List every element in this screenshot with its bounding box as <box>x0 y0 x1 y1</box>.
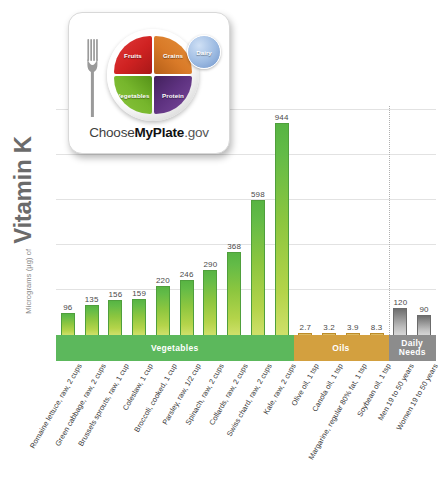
logo-wordmark-gov: .gov <box>184 125 209 140</box>
logo-wordmark-choose: Choose <box>89 125 134 140</box>
gridline-800 <box>56 154 436 155</box>
bar-value-label: 156 <box>108 290 122 299</box>
gridline-600 <box>56 199 436 200</box>
bar[interactable]: 290 <box>203 270 217 335</box>
category-bands: VegetablesOilsDaily Needs <box>56 335 436 361</box>
bar-value-label: 944 <box>275 113 289 122</box>
x-axis-label: Broccoli, cooked, 1 cup <box>132 362 179 434</box>
bar[interactable]: 120 <box>393 308 407 335</box>
x-axis-labels: Romaine lettuce, raw, 2 cupsGreen cabbag… <box>56 362 444 502</box>
bar-value-label: 3.2 <box>323 323 335 332</box>
bar-value-label: 90 <box>419 305 428 314</box>
plate-segment-fruits: Fruits <box>114 36 152 74</box>
bar-value-label: 220 <box>156 276 170 285</box>
bar-value-label: 598 <box>251 190 265 199</box>
y-axis-nutrient: Vitamin K <box>9 136 37 244</box>
bar[interactable]: 96 <box>61 313 75 335</box>
x-axis-label: Swiss chard, raw, 2 cups <box>225 362 274 438</box>
bar[interactable]: 246 <box>180 280 194 335</box>
bar-value-label: 368 <box>227 242 241 251</box>
y-axis-title: Micrograms (µg) of Vitamin K <box>0 100 46 350</box>
plate-segment-fruits-label: Fruits <box>114 36 152 74</box>
bar[interactable]: 598 <box>251 200 265 335</box>
category-band-vegetables: Vegetables <box>56 335 294 361</box>
vitamin-k-chart-page: Micrograms (µg) of Vitamin K 96135156159… <box>0 0 444 503</box>
bar-value-label: 159 <box>132 289 146 298</box>
bar-value-label: 120 <box>393 298 407 307</box>
plate-segment-vegetables: Vegetables <box>114 76 152 114</box>
bar[interactable]: 220 <box>156 286 170 336</box>
bar[interactable]: 135 <box>85 305 99 335</box>
group-divider-dotted-line <box>389 106 390 335</box>
plate-segment-protein: Protein <box>154 76 192 114</box>
plate-segment-vegetables-label: Vegetables <box>114 76 152 114</box>
gridline-400 <box>56 244 436 245</box>
category-band-daily-needs: Daily Needs <box>389 335 437 361</box>
logo-wordmark: ChooseMyPlate.gov <box>69 125 229 140</box>
bar-value-label: 2.7 <box>300 323 312 332</box>
plate-segment-dairy: Dairy <box>187 35 221 69</box>
bar[interactable]: 159 <box>132 299 146 335</box>
choose-myplate-logo: Fruits Grains Vegetables Protein Dairy C… <box>68 12 230 154</box>
bar-value-label: 290 <box>203 260 217 269</box>
bar-value-label: 3.9 <box>347 323 359 332</box>
y-axis-units: Micrograms (µg) of <box>24 249 33 314</box>
bar-value-label: 135 <box>85 295 99 304</box>
bar[interactable]: 368 <box>227 252 241 335</box>
logo-wordmark-myplate: MyPlate <box>135 125 185 140</box>
myplate-plate: Fruits Grains Vegetables Protein <box>107 29 199 121</box>
bar-value-label: 8.3 <box>371 323 383 332</box>
plate-segment-protein-label: Protein <box>154 76 192 114</box>
fork-icon <box>87 39 98 117</box>
plate-segment-dairy-label: Dairy <box>196 49 211 56</box>
bar[interactable]: 90 <box>417 315 431 335</box>
bar-value-label: 96 <box>63 303 72 312</box>
bar-value-label: 246 <box>180 270 194 279</box>
bar[interactable]: 944 <box>275 123 289 335</box>
bar[interactable]: 156 <box>108 300 122 335</box>
category-band-oils: Oils <box>294 335 389 361</box>
